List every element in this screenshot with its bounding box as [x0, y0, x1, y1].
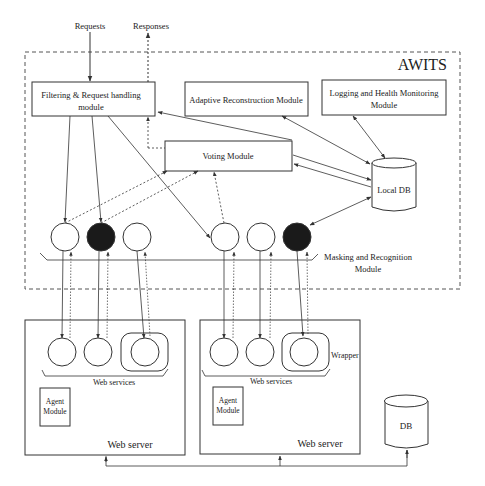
- svg-text:Agent: Agent: [219, 396, 238, 405]
- web-service-2b: [246, 338, 274, 366]
- svg-text:Web services: Web services: [250, 377, 292, 386]
- masking-nodes: [51, 223, 311, 251]
- adaptive-reconstruction-module: Adaptive Reconstruction Module: [185, 82, 308, 116]
- svg-text:Logging and Health Monitoring: Logging and Health Monitoring: [330, 88, 440, 98]
- svg-text:Module: Module: [355, 264, 382, 274]
- logging-health-module: Logging and Health Monitoring Module: [322, 80, 446, 115]
- svg-text:Local DB: Local DB: [377, 185, 411, 195]
- svg-text:Filtering & Request handling: Filtering & Request handling: [41, 90, 141, 100]
- voting-module: Voting Module: [165, 141, 292, 171]
- responses-label: Responses: [133, 21, 169, 31]
- web-service-1c: [131, 338, 159, 366]
- db-cylinder: DB: [385, 395, 429, 448]
- svg-text:module: module: [78, 102, 104, 112]
- bottom-connector: [106, 450, 407, 466]
- masking-node-3: [123, 223, 151, 251]
- svg-text:Web server: Web server: [107, 439, 153, 450]
- awits-title: AWITS: [398, 56, 447, 73]
- svg-text:Web server: Web server: [297, 438, 343, 449]
- masking-bracket: [40, 253, 318, 260]
- svg-text:Module: Module: [43, 407, 67, 416]
- masking-node-5: [247, 223, 275, 251]
- web-server-1: Web services Agent Module Web server: [25, 320, 185, 455]
- masking-node-1: [51, 223, 79, 251]
- svg-text:Adaptive Reconstruction Module: Adaptive Reconstruction Module: [189, 95, 303, 105]
- web-service-1b: [84, 338, 112, 366]
- awits-architecture-diagram: AWITS Requests Responses Filtering & Req…: [0, 0, 485, 486]
- web-services-bracket-2: [202, 369, 330, 376]
- web-service-2a: [210, 338, 238, 366]
- svg-text:Agent: Agent: [46, 397, 65, 406]
- svg-text:Voting Module: Voting Module: [202, 151, 253, 161]
- masking-node-6: [283, 223, 311, 251]
- masking-label: Masking and Recognition Module: [324, 252, 413, 274]
- svg-text:Wrapper: Wrapper: [331, 351, 359, 360]
- svg-text:Module: Module: [371, 100, 398, 110]
- web-service-2c: [290, 338, 318, 366]
- svg-text:Masking and Recognition: Masking and Recognition: [324, 252, 413, 262]
- filtering-module: Filtering & Request handling module: [32, 82, 155, 116]
- svg-text:Web services: Web services: [93, 378, 135, 387]
- requests-label: Requests: [75, 21, 106, 31]
- masking-node-4: [211, 223, 239, 251]
- local-db-cylinder: Local DB: [372, 158, 416, 211]
- web-service-1a: [48, 338, 76, 366]
- svg-text:DB: DB: [400, 421, 413, 431]
- web-server-2: Wrapper Web services Agent Module Web se…: [200, 320, 360, 454]
- web-services-bracket-1: [42, 369, 168, 376]
- masking-node-2: [87, 223, 115, 251]
- svg-text:Module: Module: [216, 406, 240, 415]
